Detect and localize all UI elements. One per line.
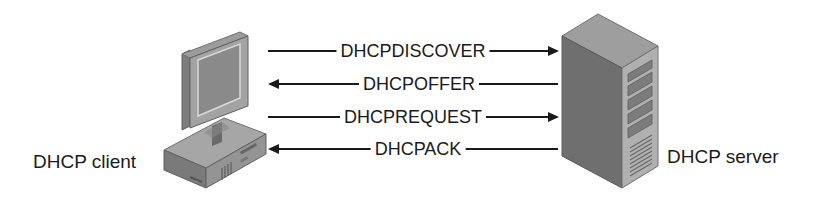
message-label: DHCPACK — [371, 137, 466, 161]
message-label: DHCPOFFER — [359, 72, 479, 96]
server-label: DHCP server — [667, 146, 779, 168]
desktop-computer-icon — [160, 30, 270, 192]
message-label: DHCPREQUEST — [340, 105, 486, 129]
message-offer-arrow: DHCPOFFER — [268, 72, 558, 96]
client-label: DHCP client — [33, 151, 136, 173]
message-request-arrow: DHCPREQUEST — [268, 105, 558, 129]
message-label: DHCPDISCOVER — [336, 39, 489, 63]
message-discover-arrow: DHCPDISCOVER — [268, 39, 558, 63]
server-tower-icon — [558, 10, 662, 190]
message-ack-arrow: DHCPACK — [268, 137, 558, 161]
